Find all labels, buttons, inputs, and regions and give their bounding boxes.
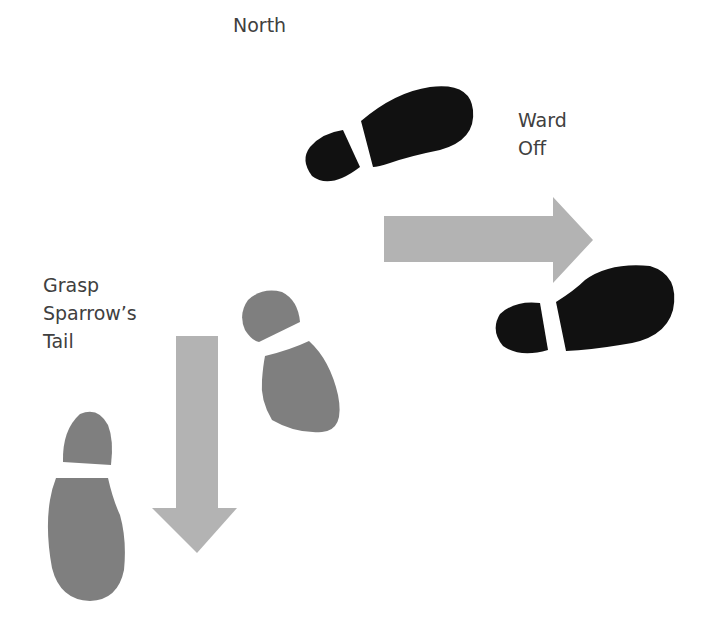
ward-off-foot-lower-icon [496, 265, 675, 353]
grasp-label-line1: Grasp [43, 272, 99, 298]
grasp-foot-upper-icon [242, 291, 340, 433]
grasp-label-line3: Tail [43, 328, 74, 354]
grasp-label-line2: Sparrow’s [43, 300, 137, 326]
ward-off-label-line1: Ward [518, 107, 567, 133]
arrow-down-icon [152, 336, 237, 553]
north-label: North [233, 12, 286, 38]
grasp-foot-lower-icon [48, 412, 125, 601]
ward-off-label-line2: Off [518, 135, 546, 161]
arrow-right-icon [384, 197, 593, 283]
ward-off-foot-upper-icon [305, 86, 473, 181]
